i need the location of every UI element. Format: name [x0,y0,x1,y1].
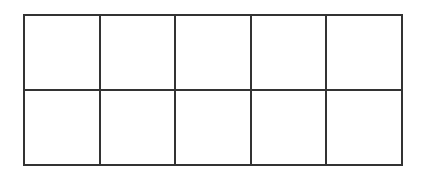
frame-cell[interactable] [252,16,328,91]
frame-cell[interactable] [101,16,177,91]
frame-cell[interactable] [327,91,403,166]
frame-cell[interactable] [25,91,101,166]
frame-cell[interactable] [327,16,403,91]
canvas [0,0,424,180]
frame-cell[interactable] [176,16,252,91]
ten-frame-grid[interactable] [23,14,403,166]
frame-cell[interactable] [252,91,328,166]
frame-cell[interactable] [25,16,101,91]
frame-cell[interactable] [101,91,177,166]
frame-cell[interactable] [176,91,252,166]
